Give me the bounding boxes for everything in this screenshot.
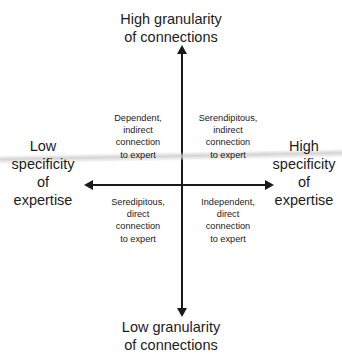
arrow-left-icon xyxy=(84,180,93,190)
axis-label-left-line3: of xyxy=(2,173,84,191)
horizontal-axis-line xyxy=(91,184,269,186)
arrow-down-icon xyxy=(177,308,187,317)
axis-label-right-line4: expertise xyxy=(266,191,342,209)
axis-label-right-line1: High xyxy=(266,137,342,155)
quadrant-top-right-line2: indirect xyxy=(186,124,270,136)
quadrant-diagram: High granularity of connections Low gran… xyxy=(0,0,342,363)
vertical-axis-line xyxy=(181,52,183,311)
axis-label-top-line1: High granularity xyxy=(0,10,342,28)
quadrant-bottom-left-line3: connection xyxy=(98,220,178,232)
quadrant-bottom-right-line2: direct xyxy=(186,208,270,220)
quadrant-bottom-left: Seredipitous, direct connection to exper… xyxy=(98,196,178,245)
arrow-up-icon xyxy=(177,45,187,54)
axis-label-bottom-line2: of connections xyxy=(0,336,342,354)
quadrant-top-left-line2: indirect xyxy=(98,124,178,136)
quadrant-top-left: Dependent, indirect connection to expert xyxy=(98,112,178,161)
axis-label-top: High granularity of connections xyxy=(0,10,342,46)
quadrant-top-left-line3: connection xyxy=(98,136,178,148)
quadrant-bottom-right: Independent, direct connection to expert xyxy=(186,196,270,245)
axis-label-bottom: Low granularity of connections xyxy=(0,318,342,354)
quadrant-top-right: Serendipitous, indirect connection to ex… xyxy=(186,112,270,161)
quadrant-top-right-line4: to expert xyxy=(186,149,270,161)
quadrant-bottom-right-line4: to expert xyxy=(186,233,270,245)
quadrant-bottom-left-line4: to expert xyxy=(98,233,178,245)
axis-label-bottom-line1: Low granularity xyxy=(0,318,342,336)
quadrant-top-left-line4: to expert xyxy=(98,149,178,161)
quadrant-top-right-line3: connection xyxy=(186,136,270,148)
axis-label-left: Low specificity of expertise xyxy=(2,137,84,209)
axis-label-right-line2: specificity xyxy=(266,155,342,173)
axis-label-left-line1: Low xyxy=(2,137,84,155)
axis-label-left-line4: expertise xyxy=(2,191,84,209)
quadrant-bottom-right-line3: connection xyxy=(186,220,270,232)
quadrant-bottom-right-line1: Independent, xyxy=(186,196,270,208)
axis-label-top-line2: of connections xyxy=(0,28,342,46)
axis-label-left-line2: specificity xyxy=(2,155,84,173)
quadrant-top-left-line1: Dependent, xyxy=(98,112,178,124)
quadrant-bottom-left-line1: Seredipitous, xyxy=(98,196,178,208)
quadrant-top-right-line1: Serendipitous, xyxy=(186,112,270,124)
quadrant-bottom-left-line2: direct xyxy=(98,208,178,220)
axis-label-right-line3: of xyxy=(266,173,342,191)
axis-label-right: High specificity of expertise xyxy=(266,137,342,209)
